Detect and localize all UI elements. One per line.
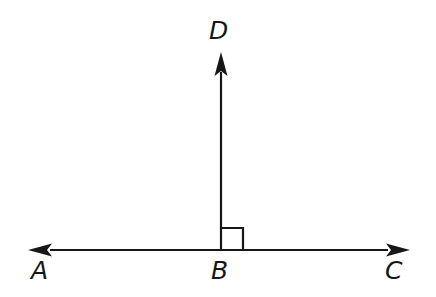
point-label-a: A <box>31 258 48 283</box>
point-label-b: B <box>211 258 228 283</box>
point-label-c: C <box>385 258 402 283</box>
geometry-figure: A B C D <box>0 0 436 297</box>
point-label-d: D <box>209 18 228 43</box>
